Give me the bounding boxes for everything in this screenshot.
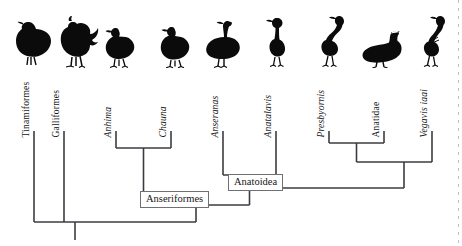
clade-label-anatoidea: Anatoidea bbox=[228, 174, 283, 191]
clade-label-anseriformes: Anseriformes bbox=[140, 191, 209, 208]
cladogram-branches bbox=[0, 0, 462, 246]
page-edge-artifact bbox=[458, 0, 459, 246]
phylogenetic-tree-figure: Tinamiformes Galliformes Anhima Chauna A… bbox=[0, 0, 462, 246]
